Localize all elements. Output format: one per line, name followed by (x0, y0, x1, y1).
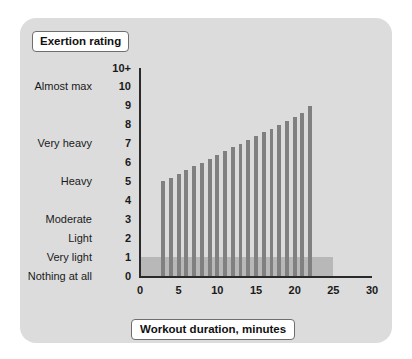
x-tick-label: 20 (289, 285, 301, 296)
x-tick-label: 10 (211, 285, 223, 296)
x-tick-label: 15 (250, 285, 262, 296)
chart-figure: 01234567891010+ Nothing at allVery light… (0, 0, 412, 359)
x-tick-label: 30 (366, 285, 378, 296)
x-axis-title: Workout duration, minutes (131, 319, 295, 340)
x-tick-label: 25 (327, 285, 339, 296)
x-axis-tick-labels: 051015202530 (0, 0, 412, 359)
x-tick-label: 5 (176, 285, 182, 296)
y-axis-title: Exertion rating (32, 31, 129, 52)
x-tick-label: 0 (137, 285, 143, 296)
